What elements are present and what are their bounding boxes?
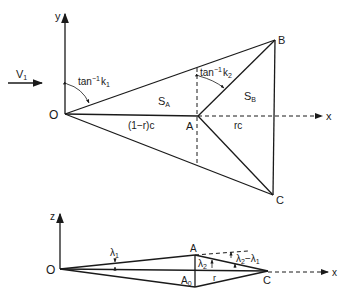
point-a0-label: A0	[181, 275, 192, 287]
edge-a0c-side	[195, 271, 268, 287]
segment-ac-label: rc	[234, 120, 242, 131]
point-c-side-label: C	[263, 274, 271, 286]
tip-edge-bc	[273, 40, 275, 195]
point-o-side-label: O	[46, 263, 55, 277]
segment-oa-label: (1−r)c	[128, 120, 154, 131]
x-axis-label: x	[326, 110, 332, 122]
angle-label-k2: tan−1k2	[200, 66, 232, 79]
wing-geometry-diagram: y x V1 tan−1k1 tan−1k2 SA SB (1−r)c rc O…	[0, 0, 348, 296]
z-axis-label: z	[50, 211, 55, 222]
y-axis-label: y	[55, 10, 61, 22]
top-view: y x V1 tan−1k1 tan−1k2 SA SB (1−r)c rc O…	[8, 10, 332, 206]
angle-label-k1: tan−1k1	[78, 75, 110, 88]
region-sb-label: SB	[244, 90, 256, 103]
chord-line-oc	[60, 269, 268, 271]
lower-edge-oa0	[60, 269, 195, 287]
root-chord-oa	[65, 114, 198, 116]
segment-r-label: r	[213, 273, 216, 283]
flow-label: V1	[16, 68, 27, 81]
point-a-label: A	[186, 120, 194, 132]
upper-edge-oa	[60, 255, 195, 269]
edge-ab	[198, 40, 275, 116]
point-o-label: O	[49, 108, 58, 122]
point-b-label: B	[278, 34, 285, 46]
side-view: z x λ1 λ2 λ2−λ1 r O A A0 C	[46, 211, 337, 287]
lambda-diff-label: λ2−λ1	[236, 253, 260, 265]
x-axis-side-label: x	[332, 267, 337, 278]
lambda1-label: λ1	[110, 247, 119, 259]
region-sa-label: SA	[158, 95, 170, 108]
lambda2-label: λ2	[198, 258, 207, 270]
point-c-label: C	[276, 194, 284, 206]
point-a-side-label: A	[190, 243, 197, 254]
